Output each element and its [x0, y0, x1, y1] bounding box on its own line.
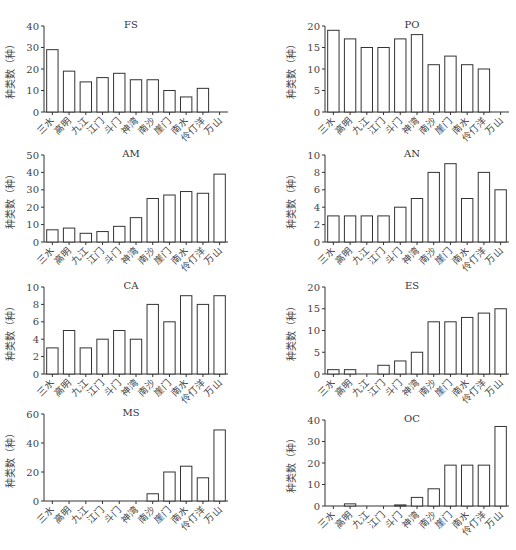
y-tick-label: 20 [26, 467, 39, 478]
bar [114, 226, 125, 242]
chart-title: CA [124, 280, 140, 291]
y-tick-label: 4 [33, 334, 39, 345]
bar [63, 331, 74, 375]
bar [361, 48, 372, 113]
y-axis-label: 种类数（种） [4, 39, 16, 99]
bar [411, 497, 422, 506]
y-tick-label: 10 [307, 479, 320, 490]
bar [428, 322, 439, 374]
bar-chart-am: AM种类数（种）01020304050三水高明九江江门斗门神湾南沙崖门南水伶仃洋… [4, 148, 228, 274]
bar [344, 504, 355, 506]
x-category-label: 万山 [202, 377, 224, 399]
y-tick-label: 8 [314, 167, 320, 178]
bar [197, 304, 208, 374]
bar [63, 228, 74, 242]
bar [395, 39, 406, 112]
y-axis-label: 种类数（种） [285, 301, 297, 361]
bar [428, 172, 439, 242]
y-tick-label: 20 [307, 21, 320, 32]
bar [147, 494, 158, 501]
y-tick-label: 0 [314, 369, 320, 380]
bar [147, 304, 158, 374]
bar [378, 48, 389, 113]
y-tick-label: 0 [33, 496, 39, 507]
chart-grid: FS种类数（种）010203040三水高明九江江门斗门神湾南沙崖门南水伶仃洋万山… [0, 0, 516, 550]
bar [445, 322, 456, 374]
bar [411, 352, 422, 374]
bar [495, 309, 506, 374]
y-tick-label: 0 [314, 237, 320, 248]
bar [461, 65, 472, 112]
bar-chart-oc: OC种类数（种）010203040三水高明九江江门斗门神湾南沙崖门南水伶仃洋万山 [285, 413, 509, 538]
bar-chart-ms: MS种类数（种）0204060三水高明九江江门斗门神湾南沙崖门南水伶仃洋万山 [4, 407, 228, 533]
bar [344, 370, 355, 374]
bar [478, 313, 489, 374]
y-tick-label: 30 [26, 42, 39, 53]
x-category-label: 万山 [202, 245, 224, 267]
bar [214, 296, 225, 374]
bar [328, 30, 339, 112]
bar [114, 331, 125, 375]
bar [180, 296, 191, 374]
bar [164, 91, 175, 113]
y-axis-label: 种类数（种） [4, 301, 16, 361]
x-category-label: 万山 [483, 509, 505, 531]
bar [214, 430, 225, 501]
bar [395, 361, 406, 374]
y-tick-label: 10 [26, 219, 39, 230]
y-tick-label: 15 [307, 42, 320, 53]
bar [80, 82, 91, 112]
bar [197, 193, 208, 242]
y-tick-label: 4 [314, 202, 320, 213]
bar [164, 472, 175, 501]
bar-chart-po: PO种类数（种）05101520三水高明九江江门斗门神湾南沙崖门南水伶仃洋万山 [285, 19, 509, 144]
y-tick-label: 20 [307, 458, 320, 469]
y-tick-label: 2 [33, 351, 39, 362]
bar [344, 39, 355, 112]
bar [97, 78, 108, 112]
x-category-label: 万山 [202, 115, 224, 137]
bar [361, 216, 372, 242]
bar-chart-ca: CA种类数（种）0246810三水高明九江江门斗门神湾南沙崖门南水伶仃洋万山 [4, 280, 228, 406]
bar [130, 80, 141, 112]
bar [164, 322, 175, 374]
bar [411, 35, 422, 112]
bar [478, 465, 489, 506]
bar [445, 465, 456, 506]
bar [344, 216, 355, 242]
bar [428, 489, 439, 506]
bar [395, 207, 406, 242]
bar [130, 218, 141, 242]
bar [114, 73, 125, 112]
y-tick-label: 10 [26, 85, 39, 96]
bar [80, 233, 91, 242]
bar [164, 195, 175, 242]
y-tick-label: 10 [26, 282, 39, 293]
x-category-label: 万山 [483, 245, 505, 267]
y-tick-label: 40 [307, 415, 320, 426]
y-tick-label: 0 [33, 369, 39, 380]
bar [328, 370, 339, 374]
bar [47, 348, 58, 374]
bar [461, 317, 472, 374]
chart-title: FS [124, 19, 138, 30]
bar [461, 465, 472, 506]
bar [180, 466, 191, 501]
y-tick-label: 0 [314, 501, 320, 512]
bar [445, 56, 456, 112]
bar [47, 50, 58, 112]
bar [97, 339, 108, 374]
y-tick-label: 8 [33, 299, 39, 310]
bar-chart-fs: FS种类数（种）010203040三水高明九江江门斗门神湾南沙崖门南水伶仃洋万山 [4, 19, 228, 144]
bar-chart-an: AN种类数（种）0246810三水高明九江江门斗门神湾南沙崖门南水伶仃洋万山 [285, 148, 509, 274]
y-tick-label: 10 [307, 64, 320, 75]
x-category-label: 万山 [202, 504, 224, 526]
y-tick-label: 30 [26, 184, 39, 195]
chart-title: AN [403, 148, 420, 159]
y-tick-label: 20 [26, 202, 39, 213]
bar [411, 199, 422, 243]
bar [147, 80, 158, 112]
bar [214, 174, 225, 242]
y-axis-label: 种类数（种） [4, 169, 16, 229]
bar [180, 97, 191, 112]
